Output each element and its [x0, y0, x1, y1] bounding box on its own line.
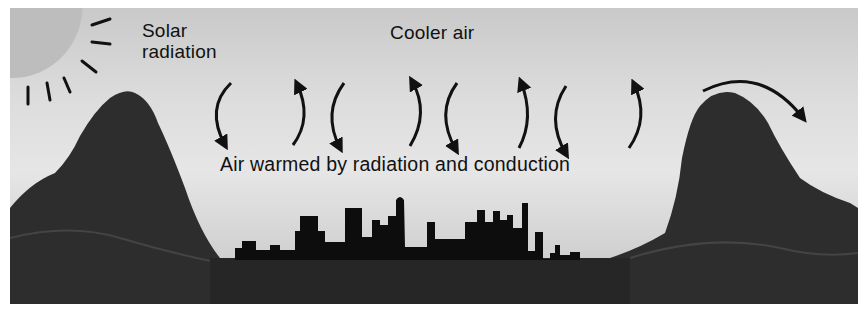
convection-arrows [216, 81, 641, 154]
diagram-frame: Solar radiation Cooler air Air warmed by… [10, 8, 858, 304]
sun-icon [10, 8, 110, 104]
solar-radiation-label: Solar radiation [142, 20, 217, 62]
solar-label-line1: Solar [142, 20, 217, 41]
cooler-air-label: Cooler air [390, 22, 474, 43]
valley-floor [210, 258, 630, 304]
solar-label-line2: radiation [142, 41, 217, 62]
right-mountain [610, 92, 858, 304]
city-skyline [235, 197, 580, 260]
warmed-air-label: Air warmed by radiation and conduction [220, 154, 570, 175]
